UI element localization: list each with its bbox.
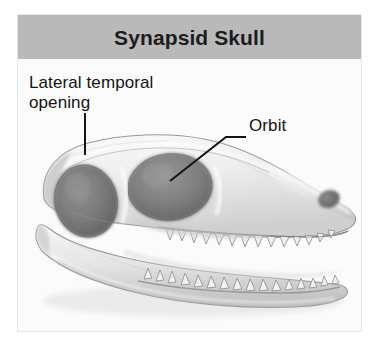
figure-title-bar: Synapsid Skull — [18, 15, 361, 59]
label-lateral-temporal-opening: Lateral temporal opening — [29, 73, 153, 113]
illustration-area: Lateral temporal opening Orbit — [18, 59, 361, 332]
figure-card: Synapsid Skull — [17, 14, 362, 332]
label-orbit: Orbit — [249, 116, 286, 136]
figure-title: Synapsid Skull — [114, 27, 265, 48]
